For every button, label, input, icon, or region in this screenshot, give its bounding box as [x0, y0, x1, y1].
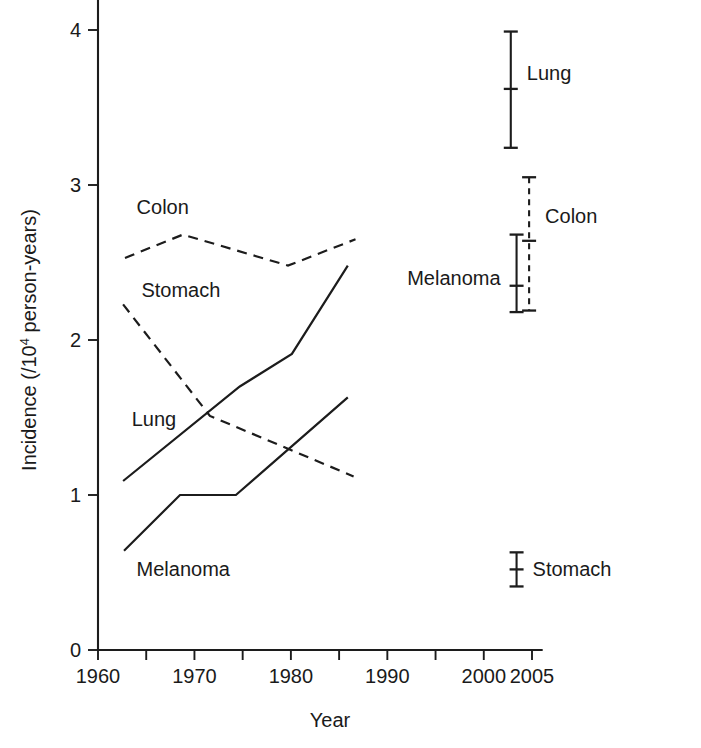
- x-axis-tick-label: 1960: [76, 665, 121, 687]
- y-axis-tick-label: 1: [70, 484, 81, 506]
- error-bar-stomach: [510, 552, 524, 586]
- x-axis-tick-label: 1980: [269, 665, 314, 687]
- series-label-melanoma: Melanoma: [137, 558, 231, 580]
- series-label-lung: Lung: [132, 408, 177, 430]
- series-line-colon: [125, 235, 356, 266]
- error-bar-label-melanoma: Melanoma: [407, 267, 501, 289]
- error-bars: [504, 32, 536, 587]
- series-label-colon: Colon: [137, 196, 189, 218]
- incidence-line-chart: 01234196019701980199020002005 ColonStoma…: [0, 0, 701, 748]
- y-axis-title-suffix: person-years): [18, 209, 40, 338]
- error-bar-colon: [522, 177, 536, 310]
- y-axis-tick-label: 2: [70, 329, 81, 351]
- y-axis-title-exponent: 4: [17, 338, 32, 345]
- error-bar-label-lung: Lung: [527, 62, 572, 84]
- x-axis-title: Year: [310, 709, 351, 731]
- y-axis-title: Incidence (/104 person-years): [17, 209, 41, 471]
- error-bar-lung: [504, 32, 518, 148]
- x-axis-tick-label: 1970: [172, 665, 217, 687]
- x-axis-tick-label: 2000: [462, 665, 507, 687]
- error-bar-label-stomach: Stomach: [533, 558, 612, 580]
- y-axis-title-prefix: Incidence (/10: [18, 345, 40, 471]
- chart-labels: ColonStomachLungMelanomaLungColonMelanom…: [132, 62, 612, 580]
- error-bar-label-colon: Colon: [545, 205, 597, 227]
- axes: 01234196019701980199020002005: [70, 0, 554, 687]
- x-axis-tick-label: 1990: [365, 665, 410, 687]
- series-label-stomach: Stomach: [141, 279, 220, 301]
- y-axis-tick-label: 4: [70, 19, 81, 41]
- y-axis-tick-label: 3: [70, 174, 81, 196]
- x-axis-tick-label: 2005: [510, 665, 555, 687]
- y-axis-tick-label: 0: [70, 639, 81, 661]
- chart-figure: 01234196019701980199020002005 ColonStoma…: [0, 0, 701, 748]
- series-line-stomach: [123, 304, 354, 476]
- error-bar-melanoma: [510, 235, 524, 313]
